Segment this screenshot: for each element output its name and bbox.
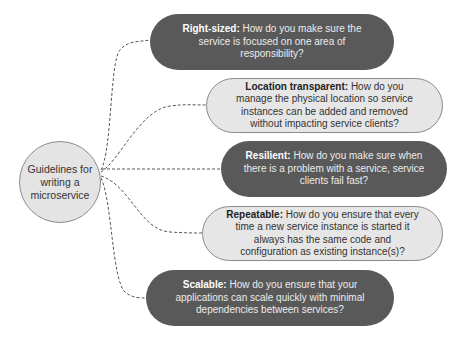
guideline-title: Location transparent: bbox=[245, 81, 348, 92]
guideline-scalable: Scalable: How do you ensure that your ap… bbox=[146, 270, 394, 326]
guideline-resilient: Resilient: How do you make sure when the… bbox=[221, 141, 447, 197]
connector-location-transparent bbox=[101, 105, 206, 172]
connector-repeatable bbox=[101, 176, 202, 233]
connector-right-sized bbox=[101, 40, 150, 170]
guideline-right-sized: Right-sized: How do you make sure the se… bbox=[150, 14, 394, 70]
guideline-location-transparent: Location transparent: How do you manage … bbox=[206, 78, 443, 133]
guideline-title: Right-sized: bbox=[183, 23, 240, 34]
guideline-title: Scalable: bbox=[183, 279, 227, 290]
guideline-repeatable: Repeatable: How do you ensure that every… bbox=[202, 206, 443, 261]
hub-circle: Guidelines for writing a microservice bbox=[19, 141, 101, 223]
guideline-title: Resilient: bbox=[246, 150, 291, 161]
hub-label: Guidelines for writing a microservice bbox=[24, 163, 96, 202]
connector-scalable bbox=[101, 178, 146, 298]
guideline-title: Repeatable: bbox=[226, 209, 283, 220]
